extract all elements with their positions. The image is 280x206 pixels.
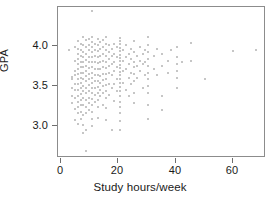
data-point xyxy=(80,118,82,120)
data-point xyxy=(161,95,163,97)
data-point xyxy=(111,74,113,76)
x-axis-tick xyxy=(117,158,118,163)
data-point xyxy=(88,61,90,63)
data-point xyxy=(82,97,84,99)
data-point xyxy=(88,78,90,80)
data-point xyxy=(102,92,104,94)
data-point xyxy=(161,109,163,111)
data-point xyxy=(125,68,127,70)
data-point xyxy=(113,43,115,45)
data-point xyxy=(82,124,84,126)
data-point xyxy=(91,92,93,94)
data-point xyxy=(88,38,90,40)
data-point xyxy=(82,61,84,63)
data-point xyxy=(144,49,146,51)
data-point xyxy=(97,38,99,40)
data-point xyxy=(91,72,93,74)
data-point xyxy=(161,65,163,67)
y-axis-tick-label: 4.0 xyxy=(32,39,48,51)
data-point xyxy=(77,68,79,70)
data-point xyxy=(108,51,110,53)
data-point xyxy=(119,67,121,69)
data-point xyxy=(99,89,101,91)
data-point xyxy=(82,114,84,116)
data-point xyxy=(94,43,96,45)
data-point xyxy=(119,106,121,108)
data-point xyxy=(119,50,121,52)
data-point xyxy=(147,58,149,60)
data-point xyxy=(94,87,96,89)
data-point xyxy=(97,106,99,108)
data-point xyxy=(88,67,90,69)
data-point xyxy=(133,61,135,63)
data-point xyxy=(128,95,130,97)
data-point xyxy=(77,78,79,80)
data-point xyxy=(82,104,84,106)
data-point xyxy=(85,92,87,94)
y-axis-title: GPA xyxy=(0,49,10,72)
data-point xyxy=(139,70,141,72)
data-point xyxy=(176,77,178,79)
data-point xyxy=(88,84,90,86)
data-point xyxy=(74,70,76,72)
data-point xyxy=(119,86,121,88)
data-point xyxy=(68,49,70,51)
data-point xyxy=(170,49,172,51)
data-point xyxy=(94,101,96,103)
data-point xyxy=(105,61,107,63)
data-point xyxy=(119,47,121,49)
data-point xyxy=(77,83,79,85)
data-point xyxy=(99,41,101,43)
data-point xyxy=(80,93,82,95)
data-point xyxy=(119,95,121,97)
data-point xyxy=(91,82,93,84)
data-point xyxy=(82,85,84,87)
data-point xyxy=(71,78,73,80)
data-point xyxy=(105,43,107,45)
data-point xyxy=(139,60,141,62)
y-axis-tick-label: 3.5 xyxy=(32,79,48,91)
data-point xyxy=(113,70,115,72)
data-point xyxy=(88,73,90,75)
data-point xyxy=(113,100,115,102)
data-point xyxy=(119,43,121,45)
data-point xyxy=(133,73,135,75)
data-point xyxy=(88,49,90,51)
data-point xyxy=(88,56,90,58)
data-point xyxy=(74,60,76,62)
data-point xyxy=(102,85,104,87)
x-axis-title: Study hours/week xyxy=(0,181,280,193)
data-point xyxy=(116,78,118,80)
data-point xyxy=(97,117,99,119)
data-point xyxy=(77,53,79,55)
data-point xyxy=(190,60,192,62)
y-axis-tick xyxy=(52,125,57,126)
data-point xyxy=(85,59,87,61)
data-point xyxy=(190,42,192,44)
data-point xyxy=(91,46,93,48)
data-point xyxy=(113,61,115,63)
data-point xyxy=(108,44,110,46)
data-point xyxy=(94,94,96,96)
data-point xyxy=(91,51,93,53)
data-point xyxy=(128,63,130,65)
data-point xyxy=(94,49,96,51)
data-point xyxy=(91,56,93,58)
data-point xyxy=(77,101,79,103)
data-point xyxy=(91,104,93,106)
data-point xyxy=(156,48,158,50)
data-point xyxy=(119,129,121,131)
data-point xyxy=(77,112,79,114)
data-point xyxy=(80,49,82,51)
data-point xyxy=(122,49,124,51)
data-point xyxy=(82,132,84,134)
data-point xyxy=(80,55,82,57)
data-point xyxy=(108,58,110,60)
x-axis-tick-label: 60 xyxy=(222,164,242,176)
data-point xyxy=(77,40,79,42)
data-point xyxy=(125,56,127,58)
data-point xyxy=(91,87,93,89)
data-points-layer xyxy=(58,7,264,156)
y-axis-tick-label: 3.0 xyxy=(32,119,48,131)
data-point xyxy=(91,66,93,68)
